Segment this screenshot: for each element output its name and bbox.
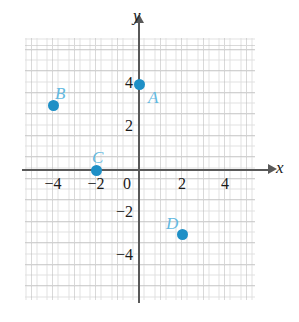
data-point-label-d: D [166, 214, 178, 234]
x-tick-label: 0 [114, 175, 140, 193]
coordinate-plane-figure: x y −4−2024 42−2−4 ABCD [0, 0, 299, 322]
x-tick-label: 2 [169, 175, 195, 193]
data-point-label-a: A [148, 88, 158, 108]
y-tick-label: 4 [107, 74, 133, 92]
y-axis-label: y [133, 6, 141, 26]
x-axis-line [22, 169, 270, 171]
x-tick-label: −2 [83, 175, 109, 193]
x-tick-label: −4 [40, 175, 66, 193]
x-axis-label: x [276, 158, 284, 178]
y-tick-label: −4 [107, 246, 133, 264]
data-point-label-c: C [92, 148, 103, 168]
x-tick-label: 4 [212, 175, 238, 193]
data-point-a [134, 79, 145, 90]
y-tick-label: −2 [107, 203, 133, 221]
y-axis-line [138, 22, 140, 303]
data-point-label-b: B [55, 84, 65, 104]
y-tick-label: 2 [107, 117, 133, 135]
